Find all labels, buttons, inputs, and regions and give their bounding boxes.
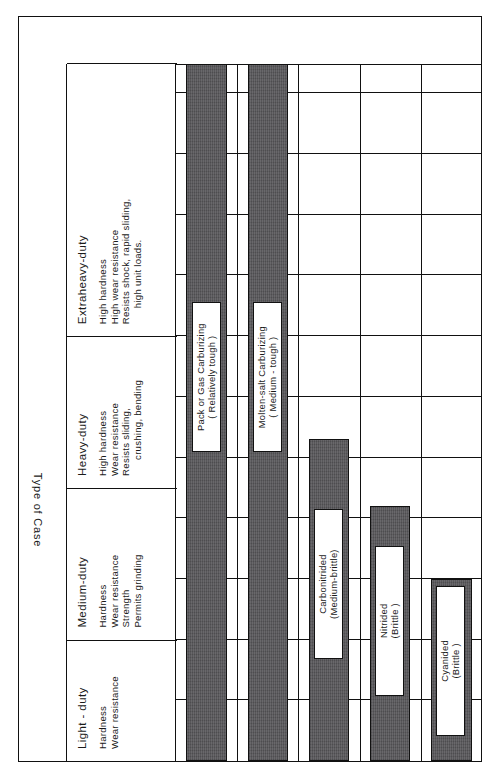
duty-class-attribute: High hardness — [97, 337, 109, 476]
duty-class-medium: Medium-duty Hardness Wear resistance Str… — [67, 488, 177, 640]
grid-line-horizontal — [298, 65, 299, 761]
duty-class-extraheavy: Extraheavy-duty High hardness High wear … — [67, 63, 177, 336]
bar-label-line-1: Cyanided — [439, 592, 450, 730]
grid-line-horizontal — [421, 65, 422, 761]
duty-class-attribute: Wear resistance — [109, 489, 121, 628]
bar-label-line-1: Nitrided — [378, 552, 389, 690]
figure-rotation-wrapper: Light - duty Hardness Wear resistance Me… — [18, 16, 482, 762]
duty-class-attribute: High hardness — [97, 64, 109, 324]
bar-label-4: Nitrided(Brittle ) — [375, 546, 404, 696]
duty-class-title: Light - duty — [76, 641, 88, 749]
bar-label-line-2: ( Medium - tough ) — [267, 308, 278, 446]
bar-chart: Light - duty Hardness Wear resistance Me… — [18, 16, 482, 762]
category-axis-title: Type of Case — [32, 473, 44, 547]
duty-class-attribute: Wear resistance — [109, 641, 121, 749]
duty-class-attribute: high unit loads. — [132, 64, 144, 324]
duty-class-title: Heavy-duty — [76, 337, 88, 476]
duty-class-attribute: High wear resistance — [109, 64, 121, 324]
grid-line-horizontal — [360, 65, 361, 761]
duty-class-attribute: Hardness — [97, 641, 109, 749]
bar-label-2: Molten-salt Carburizing( Medium - tough … — [253, 302, 282, 452]
duty-class-header-band: Light - duty Hardness Wear resistance Me… — [66, 64, 176, 762]
bar-label-1: Pack or Gas Carburizing( Relatively toug… — [192, 302, 221, 452]
duty-class-attribute: Hardness — [97, 489, 109, 628]
plot-area: Light - duty Hardness Wear resistance Me… — [66, 64, 482, 762]
bar-label-3: Carbonitrided(Medium-brittle) — [314, 509, 343, 659]
bar-label-line-2: (Medium-brittle) — [328, 515, 339, 653]
duty-class-attribute: Resists sliding, — [120, 337, 132, 476]
duty-class-title: Extraheavy-duty — [76, 64, 88, 324]
duty-class-attribute: Resists shock, rapid sliding, — [120, 64, 132, 324]
duty-class-light: Light - duty Hardness Wear resistance — [67, 640, 177, 761]
bar-label-line-1: Pack or Gas Carburizing — [195, 308, 206, 446]
grid-and-bars: Pack or Gas Carburizing( Relatively toug… — [176, 64, 482, 762]
bar-label-5: Cyanided(Brittle ) — [436, 586, 465, 736]
duty-class-attribute: Permits grinding — [132, 489, 144, 628]
duty-class-heavy: Heavy-duty High hardness Wear resistance… — [67, 336, 177, 488]
bar-label-line-2: (Brittle ) — [450, 592, 461, 730]
bar-label-line-2: ( Relatively tough ) — [206, 308, 217, 446]
duty-class-attribute: crushing, bending — [132, 337, 144, 476]
duty-class-attribute: Strength — [120, 489, 132, 628]
bar-label-line-2: (Brittle ) — [389, 552, 400, 690]
grid-line-horizontal — [237, 65, 238, 761]
bar-label-line-1: Carbonitrided — [317, 515, 328, 653]
bar-label-line-1: Molten-salt Carburizing — [256, 308, 267, 446]
duty-class-attribute: Wear resistance — [109, 337, 121, 476]
duty-class-title: Medium-duty — [76, 489, 88, 628]
